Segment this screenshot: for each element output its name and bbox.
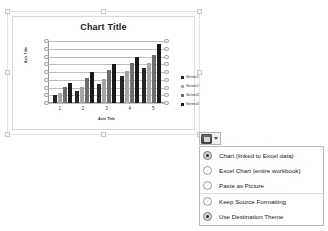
- chart-object[interactable]: Chart Title Axis Title 876543210 12345 A…: [7, 11, 200, 135]
- bar: [112, 64, 116, 103]
- bar: [102, 79, 106, 103]
- bar-group: [120, 41, 139, 103]
- bar: [147, 63, 151, 103]
- menu-item-keep-source-formatting[interactable]: Keep Source Formatting: [200, 193, 323, 209]
- menu-item-label: Use Destination Theme: [219, 213, 284, 220]
- legend-item: Series2: [181, 84, 215, 88]
- chart-title: Chart Title: [13, 22, 194, 32]
- radio-icon[interactable]: [203, 181, 212, 190]
- bar: [85, 78, 89, 103]
- menu-item-paste-as-picture[interactable]: Paste as Picture: [200, 178, 323, 193]
- radio-icon[interactable]: [203, 197, 212, 206]
- bar: [63, 87, 67, 103]
- x-axis-tick: 4: [129, 106, 132, 111]
- bar: [75, 91, 79, 103]
- bar: [107, 70, 111, 103]
- selection-handle-top-left[interactable]: [5, 9, 10, 14]
- bar: [120, 76, 124, 103]
- bar: [130, 63, 134, 103]
- clipboard-icon: [201, 134, 212, 144]
- bar-group: [97, 41, 116, 103]
- x-axis-title: Axis Title: [48, 117, 165, 121]
- selection-handle-bottom-center[interactable]: [101, 132, 106, 137]
- selection-handle-top-center[interactable]: [101, 9, 106, 14]
- chart-legend: Series1Series2Series3Series4: [181, 75, 215, 111]
- legend-swatch: [181, 94, 184, 97]
- paste-options-button[interactable]: [199, 132, 221, 145]
- bar-group: [53, 41, 72, 103]
- bar: [125, 71, 129, 103]
- legend-label: Series4: [186, 102, 199, 106]
- bar: [135, 57, 139, 104]
- plot-area: [48, 41, 165, 103]
- gridline: [48, 103, 165, 104]
- bar: [68, 83, 72, 103]
- selection-handle-middle-left[interactable]: [5, 70, 10, 75]
- bar-series-container: [48, 41, 165, 103]
- menu-item-use-destination-theme[interactable]: Use Destination Theme: [200, 209, 323, 224]
- menu-item-excel-chart-entire-workbook[interactable]: Excel Chart (entire workbook): [200, 163, 323, 178]
- bar: [97, 84, 101, 103]
- legend-label: Series3: [186, 93, 199, 97]
- radio-selected-icon[interactable]: [203, 151, 212, 160]
- bar: [142, 68, 146, 103]
- legend-swatch: [181, 103, 184, 106]
- y-axis-title: Axis Title: [24, 47, 28, 63]
- radio-icon[interactable]: [203, 166, 212, 175]
- selection-handle-top-right[interactable]: [197, 9, 202, 14]
- bar: [157, 44, 161, 103]
- legend-swatch: [181, 85, 184, 88]
- bar: [53, 95, 57, 103]
- menu-item-label: Keep Source Formatting: [219, 198, 286, 205]
- x-axis-tick: 3: [105, 106, 108, 111]
- bar-group: [75, 41, 94, 103]
- menu-item-label: Paste as Picture: [219, 182, 264, 189]
- selection-handle-bottom-left[interactable]: [5, 132, 10, 137]
- menu-item-label: Chart (linked to Excel data): [219, 152, 294, 159]
- legend-label: Series1: [186, 75, 199, 79]
- menu-item-chart-linked-to-excel-data[interactable]: Chart (linked to Excel data): [200, 148, 323, 163]
- x-axis-tick-labels: 12345: [48, 106, 165, 111]
- legend-item: Series1: [181, 75, 215, 79]
- legend-item: Series4: [181, 102, 215, 106]
- radio-selected-icon[interactable]: [203, 212, 212, 221]
- bar: [58, 93, 62, 103]
- x-axis-tick: 5: [152, 106, 155, 111]
- bar-group: [142, 41, 161, 103]
- legend-label: Series2: [186, 84, 199, 88]
- x-axis-tick: 2: [82, 106, 85, 111]
- legend-swatch: [181, 76, 184, 79]
- bar: [90, 72, 94, 103]
- menu-item-label: Excel Chart (entire workbook): [219, 167, 301, 174]
- legend-item: Series3: [181, 93, 215, 97]
- chart-canvas[interactable]: Chart Title Axis Title 876543210 12345 A…: [12, 16, 195, 130]
- paste-options-menu[interactable]: Chart (linked to Excel data)Excel Chart …: [199, 146, 324, 226]
- bar: [80, 87, 84, 103]
- chevron-down-icon: [214, 137, 218, 140]
- bar: [152, 55, 156, 103]
- x-axis-tick: 1: [58, 106, 61, 111]
